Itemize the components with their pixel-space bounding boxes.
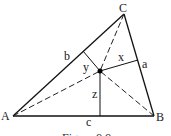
distance-label-y: y: [83, 60, 89, 74]
vertex-label-c: C: [119, 1, 127, 15]
side-label-c: c: [86, 115, 91, 129]
side-bc: [124, 14, 154, 116]
triangle-diagram: A B C a b c x y z Figure 9.9: [0, 0, 171, 136]
vertex-label-a: A: [1, 109, 10, 123]
side-ac: [13, 14, 124, 116]
distance-label-x: x: [118, 50, 124, 64]
interior-point: [98, 69, 103, 74]
distance-label-z: z: [92, 87, 97, 101]
side-label-b: b: [64, 49, 70, 63]
vertex-label-b: B: [156, 110, 164, 124]
figure-caption: Figure 9.9: [62, 131, 111, 136]
dashed-b-to-p: [100, 71, 154, 116]
dashed-a-to-p: [13, 71, 100, 116]
side-label-a: a: [142, 57, 148, 71]
